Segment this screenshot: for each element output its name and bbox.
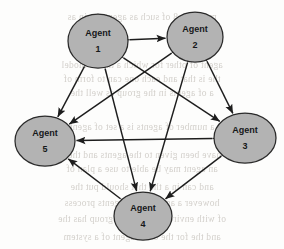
node-agent-4[interactable]: Agent4: [114, 192, 172, 240]
agent-3-label-line1: Agent: [232, 125, 258, 135]
edge-agent-1-to-agent-2: [129, 38, 165, 39]
edge-agent-1-to-agent-3: [123, 58, 219, 122]
node-agent-5[interactable]: Agent5: [15, 116, 75, 166]
agent-2-ellipse: [167, 12, 223, 62]
node-agent-2[interactable]: Agent2: [167, 12, 223, 62]
agent-4-label-line2: 4: [140, 219, 145, 229]
agent-2-label-line2: 2: [192, 40, 197, 50]
edge-agent-1-to-agent-4: [105, 69, 136, 191]
edge-agent-1-to-agent-5: [58, 67, 85, 117]
agent-1-label-line2: 1: [95, 44, 100, 54]
diagram-page: mulative 8 of such as agent the in asage…: [0, 0, 284, 249]
agent-3-ellipse: [214, 113, 276, 163]
edge-agent-3-to-agent-4: [165, 156, 221, 199]
agent-5-label-line1: Agent: [32, 128, 58, 138]
nodes-layer: Agent1Agent2Agent3Agent4Agent5: [15, 12, 276, 240]
edge-agent-4-to-agent-5: [68, 159, 120, 199]
agent-1-ellipse: [68, 14, 128, 68]
edge-agent-3-to-agent-5: [76, 138, 212, 140]
agent-2-label-line1: Agent: [182, 24, 208, 34]
edge-agent-2-to-agent-3: [207, 61, 233, 113]
agent-4-ellipse: [114, 192, 172, 240]
agent-5-ellipse: [15, 116, 75, 166]
agent-4-label-line1: Agent: [130, 203, 156, 213]
agent-3-label-line2: 3: [242, 141, 247, 151]
agent-1-label-line1: Agent: [85, 28, 111, 38]
edge-agent-2-to-agent-4: [150, 63, 187, 192]
node-agent-1[interactable]: Agent1: [68, 14, 128, 68]
agent-5-label-line2: 5: [42, 144, 47, 154]
node-agent-3[interactable]: Agent3: [214, 113, 276, 163]
agent-network-graph: Agent1Agent2Agent3Agent4Agent5: [0, 0, 284, 249]
